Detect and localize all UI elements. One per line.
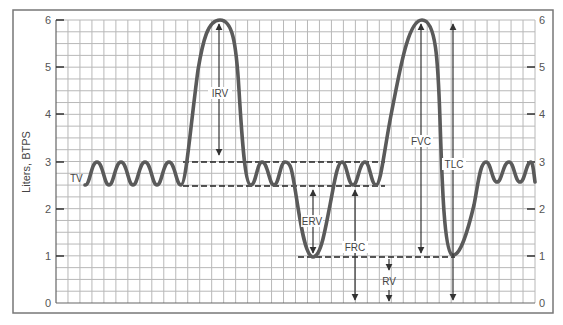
tlc-label: TLC bbox=[445, 159, 464, 170]
right-tick-label-5: 5 bbox=[539, 61, 545, 73]
tick-label-6: 6 bbox=[45, 14, 51, 26]
y-axis-label: Liters, BTPS bbox=[20, 131, 32, 193]
erv-label: ERV bbox=[302, 216, 323, 227]
right-tick-label-3: 3 bbox=[539, 156, 545, 168]
spirogram-chart: 0 1 2 3 4 5 6 0 1 2 3 4 5 6 Liters, BTPS… bbox=[0, 0, 563, 325]
tv-label: TV bbox=[70, 173, 83, 184]
right-tick-label-1: 1 bbox=[539, 250, 545, 262]
tick-label-0: 0 bbox=[45, 297, 51, 309]
right-tick-label-0: 0 bbox=[539, 297, 545, 309]
tick-label-1: 1 bbox=[45, 250, 51, 262]
frc-label: FRC bbox=[345, 242, 366, 253]
right-tick-label-4: 4 bbox=[539, 108, 545, 120]
fvc-label: FVC bbox=[411, 136, 431, 147]
right-tick-label-6: 6 bbox=[539, 14, 545, 26]
tick-label-4: 4 bbox=[45, 108, 51, 120]
tick-label-3: 3 bbox=[45, 156, 51, 168]
tick-label-5: 5 bbox=[45, 61, 51, 73]
irv-label: IRV bbox=[212, 88, 229, 99]
tick-label-2: 2 bbox=[45, 203, 51, 215]
right-tick-label-2: 2 bbox=[539, 203, 545, 215]
rv-label: RV bbox=[382, 276, 396, 287]
